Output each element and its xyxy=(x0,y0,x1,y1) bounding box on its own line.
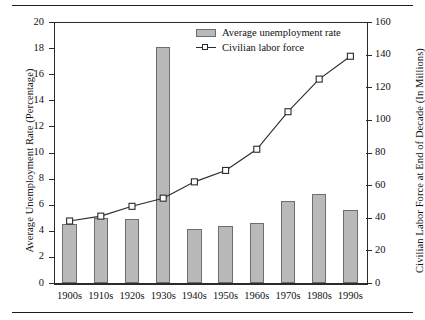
left-tick-label: 8 xyxy=(39,173,44,183)
right-tick-mark xyxy=(366,87,372,88)
left-tick-label: 2 xyxy=(39,251,44,261)
left-tick-mark xyxy=(49,48,55,49)
x-tick-label-1950s: 1950s xyxy=(210,290,241,301)
bar-1960s xyxy=(250,223,264,283)
left-tick-mark xyxy=(49,74,55,75)
x-tick-label-1990s: 1990s xyxy=(335,290,366,301)
left-axis-title: Average Unemployment Rate (Percentage) xyxy=(24,46,35,276)
x-tick-label-1930s: 1930s xyxy=(148,290,179,301)
left-tick-label: 20 xyxy=(34,17,45,27)
bar-1910s xyxy=(94,218,108,283)
legend-item-civilian-labor-force: Civilian labor force xyxy=(196,40,341,55)
bar-1930s xyxy=(156,47,170,283)
chart-figure: Average Unemployment Rate (Percentage) C… xyxy=(0,0,425,320)
x-tick-label-1910s: 1910s xyxy=(85,290,116,301)
right-tick-mark xyxy=(366,185,372,186)
bottom-divider-rule xyxy=(12,312,413,313)
right-tick-label: 0 xyxy=(375,278,380,288)
right-tick-mark xyxy=(366,55,372,56)
left-tick-mark xyxy=(49,257,55,258)
left-tick-mark xyxy=(49,126,55,127)
x-tick-label-1920s: 1920s xyxy=(116,290,147,301)
right-tick-mark xyxy=(366,250,372,251)
left-tick-mark xyxy=(49,179,55,180)
legend-item-average-unemployment-rate: Average unemployment rate xyxy=(196,25,341,40)
right-tick-label: 60 xyxy=(375,180,386,190)
right-tick-label: 80 xyxy=(375,147,386,157)
right-axis-title: Civilian Labor Force at End of Decade (I… xyxy=(414,36,425,286)
x-tick-label-1900s: 1900s xyxy=(54,290,85,301)
line-square-marker-icon xyxy=(196,43,216,53)
right-tick-label: 100 xyxy=(375,114,391,124)
bar-1970s xyxy=(281,201,295,283)
right-tick-label: 120 xyxy=(375,82,391,92)
chart-legend: Average unemployment rate Civilian labor… xyxy=(196,25,341,55)
left-tick-label: 18 xyxy=(34,43,45,53)
bar-1940s xyxy=(187,229,201,283)
x-tick-label-1970s: 1970s xyxy=(272,290,303,301)
right-tick-label: 40 xyxy=(375,212,386,222)
right-tick-mark xyxy=(366,218,372,219)
x-tick-label-1960s: 1960s xyxy=(241,290,272,301)
bar-1990s xyxy=(343,210,357,283)
left-tick-label: 10 xyxy=(34,147,45,157)
legend-label-civilian-labor-force: Civilian labor force xyxy=(222,42,304,53)
bar-1980s xyxy=(312,194,326,283)
left-tick-mark xyxy=(49,231,55,232)
left-tick-label: 12 xyxy=(34,121,45,131)
bar-1950s xyxy=(218,226,232,283)
left-tick-label: 0 xyxy=(39,278,44,288)
x-tick-label-1940s: 1940s xyxy=(179,290,210,301)
right-tick-mark xyxy=(366,283,372,284)
left-tick-label: 6 xyxy=(39,199,44,209)
right-tick-mark xyxy=(366,120,372,121)
left-tick-label: 4 xyxy=(39,225,44,235)
right-tick-label: 160 xyxy=(375,17,391,27)
top-divider-rule xyxy=(12,5,413,6)
left-tick-mark xyxy=(49,153,55,154)
left-tick-mark xyxy=(49,205,55,206)
bar-1900s xyxy=(62,224,76,283)
x-axis-line xyxy=(54,283,367,284)
right-tick-label: 20 xyxy=(375,245,386,255)
left-tick-label: 16 xyxy=(34,69,45,79)
x-tick-label-1980s: 1980s xyxy=(304,290,335,301)
left-tick-mark xyxy=(49,22,55,23)
left-tick-mark xyxy=(49,100,55,101)
legend-label-average-unemployment-rate: Average unemployment rate xyxy=(222,27,341,38)
left-tick-mark xyxy=(49,283,55,284)
right-tick-mark xyxy=(366,22,372,23)
bar-1920s xyxy=(125,219,139,283)
left-tick-label: 14 xyxy=(34,95,45,105)
right-tick-label: 140 xyxy=(375,49,391,59)
right-tick-mark xyxy=(366,153,372,154)
bar-swatch-icon xyxy=(196,29,216,37)
